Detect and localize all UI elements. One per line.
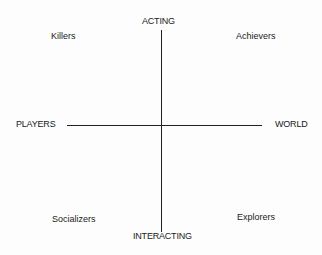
axis-label-interacting: INTERACTING <box>133 232 192 241</box>
horizontal-axis-line <box>67 125 262 126</box>
quadrant-label-achievers: Achievers <box>236 32 276 41</box>
axis-label-world: WORLD <box>275 120 308 129</box>
quadrant-label-explorers: Explorers <box>237 213 275 222</box>
axis-label-acting: ACTING <box>142 17 175 26</box>
quadrant-label-killers: Killers <box>51 32 76 41</box>
quadrant-label-socializers: Socializers <box>52 215 96 224</box>
axis-label-players: PLAYERS <box>16 120 55 129</box>
vertical-axis-line <box>161 30 162 232</box>
